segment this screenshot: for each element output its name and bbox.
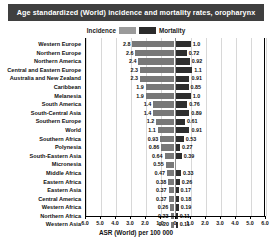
mortality-value: 0.91 (191, 126, 202, 135)
region-label: Polynesia (0, 143, 85, 152)
mortality-bar (176, 93, 191, 99)
region-label: Northern America (0, 57, 85, 66)
table-row: Southern Europe1.20.61 (0, 117, 272, 126)
incidence-value: 1.2 (147, 117, 155, 126)
table-row: Melanesia1.91.0 (0, 92, 272, 101)
incidence-value: 0.86 (149, 143, 160, 152)
x-axis-tick-labels: 6.05.04.03.02.01.001.02.03.04.05.06.0 (0, 220, 272, 228)
incidence-value: 2.8 (123, 40, 131, 49)
region-label: Southern Europe (0, 117, 85, 126)
mortality-bar (176, 136, 184, 142)
region-label: Australia and New Zealand (0, 74, 85, 83)
region-label: World (0, 126, 85, 135)
chart-title-bar: Age standardized (World) incidence and m… (8, 4, 264, 21)
incidence-bar (165, 153, 174, 159)
mortality-bar (176, 41, 191, 47)
incidence-bar (168, 179, 174, 185)
bar-zone: 2.31.1 (85, 66, 265, 75)
table-row: South America1.40.76 (0, 100, 272, 109)
region-label: South-Eastern Asia (0, 152, 85, 161)
bar-zone: 0.55 (85, 160, 265, 169)
table-row: Micronesia0.55 (0, 160, 272, 169)
page-title: Age standardized (World) incidence and m… (17, 8, 256, 17)
mortality-bar (176, 119, 185, 125)
region-label: Northern Europe (0, 49, 85, 58)
incidence-value: 0.38 (156, 178, 167, 187)
mortality-value: 0.89 (191, 109, 202, 118)
mortality-bar (176, 127, 189, 133)
incidence-bar (169, 196, 174, 202)
incidence-value: 2.3 (130, 66, 138, 75)
mortality-bar (176, 204, 179, 210)
incidence-bar (160, 136, 174, 142)
table-row: Caribbean1.90.85 (0, 83, 272, 92)
mortality-value: 0.72 (189, 49, 200, 58)
bar-zone: 0.370.17 (85, 186, 265, 195)
incidence-value: 0.26 (158, 203, 169, 212)
incidence-bar (166, 162, 174, 168)
incidence-bar (146, 93, 174, 99)
incidence-bar (167, 170, 174, 176)
incidence-value: 0.47 (155, 169, 166, 178)
table-row: Eastern Africa0.380.26 (0, 178, 272, 187)
mortality-value: 0.85 (191, 83, 202, 92)
incidence-value: 0.37 (156, 195, 167, 204)
chart-page: Age standardized (World) incidence and m… (0, 0, 272, 239)
legend-swatch-mortality (139, 27, 156, 34)
incidence-bar (140, 76, 174, 82)
incidence-bar (158, 127, 174, 133)
table-row: Western Africa0.260.19 (0, 203, 272, 212)
bar-zone: 0.860.27 (85, 143, 265, 152)
x-tick-label: 4.0 (111, 220, 119, 226)
bar-zone: 1.40.76 (85, 100, 265, 109)
mortality-value: 0.18 (181, 195, 192, 204)
region-label: Southern Africa (0, 135, 85, 144)
region-label: Western Europe (0, 40, 85, 49)
mortality-bar (176, 153, 182, 159)
mortality-value: 0.27 (182, 143, 193, 152)
mortality-value: 0.53 (186, 135, 197, 144)
region-label: South America (0, 100, 85, 109)
incidence-bar (161, 144, 174, 150)
table-row: Northern Europe2.60.72 (0, 49, 272, 58)
x-tick-label: 2.0 (201, 220, 209, 226)
incidence-value: 2.6 (126, 49, 134, 58)
table-row: Central America0.370.18 (0, 195, 272, 204)
table-row: Northern America2.40.92 (0, 57, 272, 66)
bar-zone: 0.380.26 (85, 178, 265, 187)
bar-zone: 0.930.53 (85, 135, 265, 144)
x-tick-label: 3.0 (126, 220, 134, 226)
mortality-value: 0.26 (182, 178, 193, 187)
table-row: Western Europe2.81.0 (0, 40, 272, 49)
table-row: World1.10.91 (0, 126, 272, 135)
incidence-value: 0.93 (148, 135, 159, 144)
incidence-bar (132, 41, 174, 47)
bar-zone: 0.640.39 (85, 152, 265, 161)
mortality-value: 0.91 (191, 74, 202, 83)
table-row: Middle Africa0.470.33 (0, 169, 272, 178)
region-label: Eastern Asia (0, 186, 85, 195)
region-label: Micronesia (0, 160, 85, 169)
region-label: Central and Eastern Europe (0, 66, 85, 75)
incidence-bar (135, 50, 174, 56)
x-tick-label: 6.0 (81, 220, 89, 226)
mortality-value: 0.19 (181, 203, 192, 212)
incidence-bar (140, 67, 174, 73)
x-tick-label: 3.0 (216, 220, 224, 226)
table-row: South-Central Asia1.40.89 (0, 109, 272, 118)
incidence-value: 0.64 (152, 152, 163, 161)
mortality-bar (176, 101, 187, 107)
incidence-bar (153, 101, 174, 107)
mortality-value: 1.1 (194, 66, 202, 75)
x-tick-label: 6.0 (261, 220, 269, 226)
table-row: Australia and New Zealand2.30.91 (0, 74, 272, 83)
bar-zone: 0.370.18 (85, 195, 265, 204)
bar-zone: 2.40.92 (85, 57, 265, 66)
bar-zone: 1.91.0 (85, 92, 265, 101)
mortality-bar (176, 179, 180, 185)
incidence-value: 2.3 (130, 74, 138, 83)
incidence-bar (170, 204, 174, 210)
x-tick-label: 1.0 (186, 220, 194, 226)
legend-swatch-incidence (119, 27, 136, 34)
mortality-bar (176, 187, 179, 193)
